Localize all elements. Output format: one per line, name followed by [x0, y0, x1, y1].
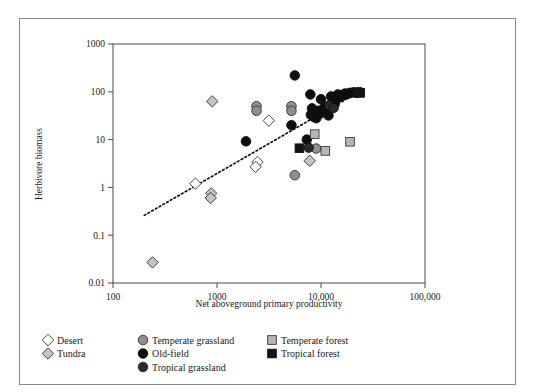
data-point [290, 71, 300, 81]
data-point [306, 90, 316, 100]
x-tick-label: 100,000 [410, 292, 441, 302]
data-point [190, 178, 201, 189]
data-point [263, 115, 274, 126]
y-tick-label: 1 [100, 183, 105, 193]
data-point [295, 144, 304, 153]
data-point [321, 147, 330, 156]
legend: DesertTundraTemperate grasslandOld-field… [42, 334, 348, 372]
legend-marker-tundra [42, 348, 53, 359]
legend-marker-temperate-forest [268, 336, 277, 345]
x-axis-label: Net aboveground primary productivity [196, 299, 343, 309]
data-point [356, 89, 365, 98]
series-desert [190, 115, 275, 189]
y-tick-label: 1000 [86, 39, 105, 49]
figure-container: 100100010,000100,000 10001001010.10.01 N… [0, 0, 534, 392]
y-axis-label: Herbivore biomass [34, 128, 44, 200]
legend-label-tropical-grassland: Tropical grassland [152, 362, 226, 373]
x-tick-label: 100 [106, 292, 121, 302]
y-tick-label: 0.1 [93, 231, 105, 241]
legend-label-old-field: Old-field [152, 348, 189, 359]
data-point [241, 137, 251, 147]
data-point [147, 257, 158, 268]
legend-marker-tropical-grassland [138, 362, 148, 372]
data-point [287, 120, 297, 130]
plot-axes [113, 44, 425, 283]
legend-marker-tropical-forest [268, 349, 277, 358]
data-point [207, 96, 218, 107]
legend-marker-desert [42, 334, 53, 345]
data-point [304, 155, 315, 166]
y-tick-label: 0.01 [88, 278, 105, 288]
legend-label-temperate-forest: Temperate forest [281, 335, 349, 346]
y-tick-label: 10 [96, 135, 106, 145]
data-point [287, 106, 297, 116]
y-axis-ticks: 10001001010.10.01 [86, 39, 113, 288]
data-point [329, 103, 339, 113]
legend-label-temperate-grassland: Temperate grassland [152, 335, 234, 346]
legend-marker-old-field [138, 349, 148, 359]
legend-label-tundra: Tundra [57, 348, 86, 359]
data-point [290, 170, 300, 180]
scatter-plot: 100100010,000100,000 10001001010.10.01 N… [0, 0, 534, 392]
data-points-group [147, 71, 365, 268]
plot-frame [113, 44, 425, 283]
legend-marker-temperate-grassland [138, 335, 148, 345]
data-point [346, 137, 355, 146]
y-tick-label: 100 [91, 87, 106, 97]
legend-label-desert: Desert [57, 335, 83, 346]
data-point [252, 106, 262, 116]
legend-label-tropical-forest: Tropical forest [281, 348, 340, 359]
data-point [310, 130, 319, 139]
data-point [304, 143, 314, 153]
